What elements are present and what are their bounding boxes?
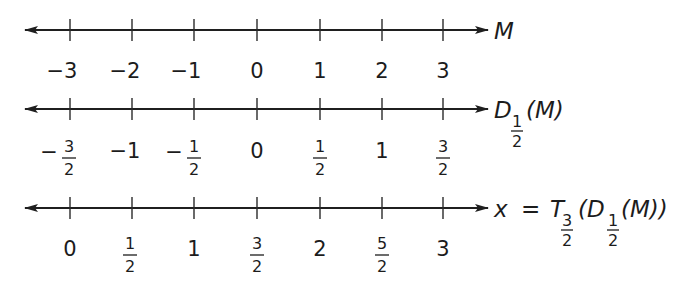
fraction-label: 1 2 (123, 234, 137, 276)
numerator: 3 (252, 234, 262, 253)
tick-label: −3 (47, 59, 78, 83)
numerator: 1 (125, 234, 135, 253)
numerator: 1 (189, 137, 199, 156)
denominator: 2 (252, 257, 262, 276)
tick-label: 3 (436, 59, 449, 83)
sign: − (165, 140, 183, 164)
number-line-m: −3 −2 −1 0 1 2 3 M (25, 18, 514, 83)
tick-label: 1 (375, 139, 388, 163)
numerator: 1 (315, 137, 325, 156)
denominator: 2 (377, 257, 387, 276)
number-line-x: 0 1 2 1 3 2 2 5 2 3 x = T (25, 196, 668, 276)
function-d: D (494, 97, 512, 123)
variable-x: x (493, 196, 508, 222)
tick-label: 0 (63, 237, 76, 261)
d-subscript-denominator: 2 (608, 231, 618, 250)
d-subscript-numerator: 1 (608, 211, 618, 230)
denominator: 2 (64, 160, 74, 179)
inner-argument: (M)) (621, 196, 668, 222)
fraction-label: 3 2 (436, 137, 450, 179)
tick-label: 1 (187, 237, 200, 261)
fraction-label: − 1 2 (165, 137, 201, 179)
tick-labels: 0 1 2 1 3 2 2 5 2 3 (63, 234, 449, 276)
fraction-label: 5 2 (375, 234, 389, 276)
line-label-m: M (494, 18, 514, 44)
fraction-label: 3 2 (250, 234, 264, 276)
tick-labels: −3 −2 −1 0 1 2 3 (47, 59, 450, 83)
subscript-denominator: 2 (512, 132, 522, 151)
t-subscript-denominator: 2 (562, 231, 572, 250)
tick-label: −1 (110, 139, 141, 163)
tick-labels: − 3 2 −1 − 1 2 0 1 2 1 3 (40, 137, 450, 179)
denominator: 2 (125, 257, 135, 276)
number-lines-diagram: −3 −2 −1 0 1 2 3 M − 3 2 (0, 0, 683, 294)
numerator: 3 (64, 137, 74, 156)
tick-label: 0 (250, 139, 263, 163)
fraction-label: 1 2 (313, 137, 327, 179)
numerator: 3 (438, 137, 448, 156)
denominator: 2 (315, 160, 325, 179)
tick-label: 1 (313, 59, 326, 83)
tick-label: 0 (250, 59, 263, 83)
denominator: 2 (189, 160, 199, 179)
argument: (M) (526, 97, 564, 123)
tick-label: −1 (171, 59, 202, 83)
t-subscript-numerator: 3 (562, 211, 572, 230)
tick-label: 2 (313, 237, 326, 261)
equals-sign: = (521, 196, 540, 222)
number-line-d: − 3 2 −1 − 1 2 0 1 2 1 3 (25, 97, 564, 179)
line-label-d: D 1 2 (M) (494, 97, 564, 151)
numerator: 5 (377, 234, 387, 253)
tick-label: 2 (375, 59, 388, 83)
tick-label: 3 (436, 237, 449, 261)
line-label-x: x = T 3 2 ( D 1 2 (M)) (493, 196, 668, 250)
tick-label: −2 (110, 59, 141, 83)
sign: − (40, 140, 58, 164)
fraction-label: − 3 2 (40, 137, 76, 179)
denominator: 2 (438, 160, 448, 179)
subscript-numerator: 1 (512, 112, 522, 131)
function-d: D (587, 196, 605, 222)
